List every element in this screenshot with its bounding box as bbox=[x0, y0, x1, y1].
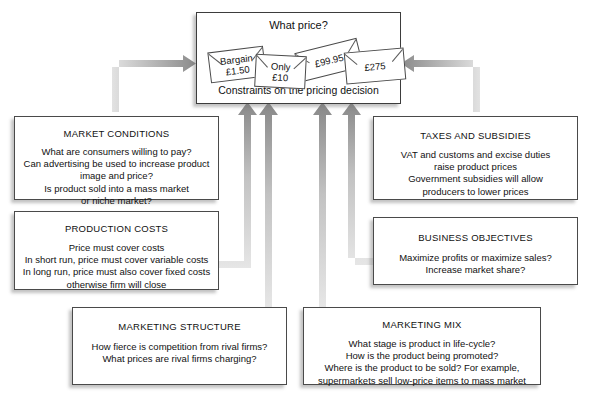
box-production-costs: PRODUCTION COSTS Price must cover costs … bbox=[14, 211, 219, 290]
box-marketing-mix-body: What stage is product in life-cycle? How… bbox=[304, 338, 540, 387]
box-business-objectives-title: BUSINESS OBJECTIVES bbox=[374, 232, 577, 243]
connector-marketing-mix bbox=[313, 102, 332, 307]
price-tag-line-1: £99.95 bbox=[314, 51, 345, 69]
box-production-costs-title: PRODUCTION COSTS bbox=[15, 223, 218, 234]
box-market-conditions-title: MARKET CONDITIONS bbox=[15, 128, 218, 139]
box-business-objectives-body: Maximize profits or maximize sales? Incr… bbox=[374, 252, 577, 276]
price-tag-twoseventyfive: £275 bbox=[344, 47, 407, 84]
tag-fold-icon bbox=[292, 57, 306, 71]
connector-business-objectives bbox=[342, 102, 373, 265]
box-business-objectives: BUSINESS OBJECTIVES Maximize profits or … bbox=[373, 217, 578, 285]
connector-production-costs bbox=[219, 102, 257, 268]
price-tag-line-2: £1.50 bbox=[225, 63, 250, 77]
box-marketing-structure-body: How fierce is competition from rival fir… bbox=[73, 341, 286, 365]
box-marketing-structure-title: MARKETING STRUCTURE bbox=[73, 321, 286, 332]
box-marketing-mix-title: MARKETING MIX bbox=[304, 319, 540, 330]
box-marketing-structure: MARKETING STRUCTURE How fierce is compet… bbox=[72, 307, 287, 385]
central-price-box: What price? Bargain £1.50 Only £10 £99.9… bbox=[196, 12, 401, 104]
price-tag-line-2: £10 bbox=[272, 71, 288, 83]
tag-fold-icon bbox=[345, 52, 359, 66]
connector-taxes-subsidies bbox=[401, 55, 480, 112]
box-marketing-mix: MARKETING MIX What stage is product in l… bbox=[303, 307, 541, 385]
box-market-conditions-body: What are consumers willing to pay? Can a… bbox=[15, 146, 218, 207]
box-market-conditions: MARKET CONDITIONS What are consumers wil… bbox=[14, 116, 219, 200]
box-taxes-and-subsidies-title: TAXES AND SUBSIDIES bbox=[374, 130, 577, 141]
price-tag-group: Bargain £1.50 Only £10 £99.95 £275 bbox=[197, 37, 402, 89]
tag-fold-icon bbox=[208, 52, 222, 66]
box-taxes-and-subsidies-body: VAT and customs and excise duties raise … bbox=[374, 149, 577, 198]
price-tag-line-1: £275 bbox=[364, 60, 386, 73]
connector-marketing-structure bbox=[259, 102, 278, 307]
central-question-label: What price? bbox=[197, 19, 400, 31]
tag-fold-icon bbox=[256, 55, 270, 69]
tag-fold-icon bbox=[390, 49, 404, 63]
box-production-costs-body: Price must cover costs In short run, pri… bbox=[15, 242, 218, 291]
diagram-canvas: What price? Bargain £1.50 Only £10 £99.9… bbox=[0, 0, 592, 406]
price-tag-only-ten: Only £10 bbox=[254, 54, 307, 90]
box-taxes-and-subsidies: TAXES AND SUBSIDIES VAT and customs and … bbox=[373, 116, 578, 200]
connector-market-conditions bbox=[112, 55, 196, 112]
